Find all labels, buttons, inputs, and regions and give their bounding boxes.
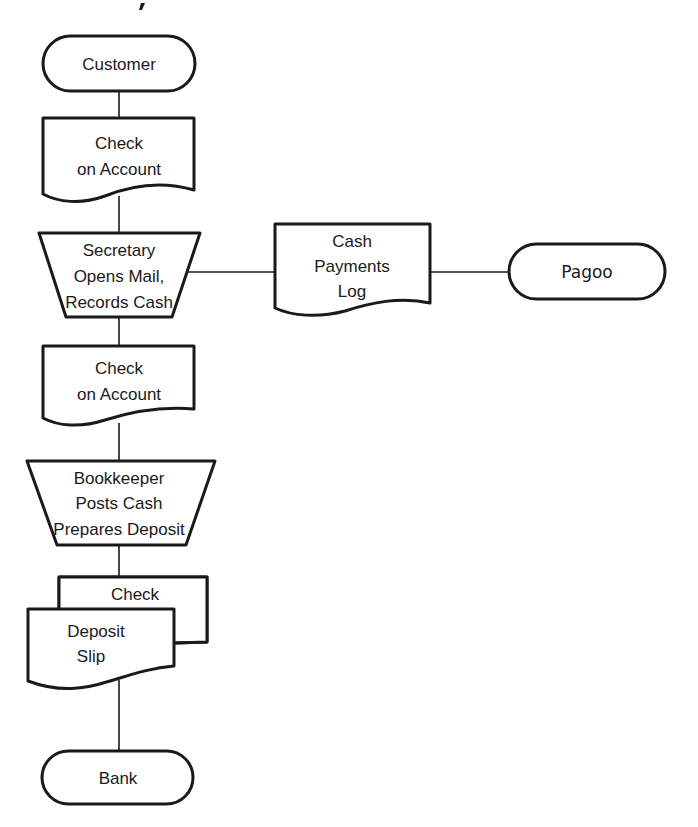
- node-label: Check: [95, 134, 144, 153]
- node-label: Payments: [314, 257, 390, 276]
- node-label: Posts Cash: [76, 494, 163, 513]
- node-label: Bookkeeper: [74, 469, 165, 488]
- node-label: Check: [95, 359, 144, 378]
- node-label: Check: [111, 585, 160, 604]
- node-bank: Bank: [42, 751, 193, 804]
- node-deposit-slip: Deposit Slip: [28, 609, 174, 689]
- node-label: on Account: [77, 160, 161, 179]
- connectors: [119, 92, 508, 750]
- cropped-mark: [139, 3, 145, 10]
- node-secretary: Secretary Opens Mail, Records Cash: [39, 233, 200, 317]
- node-bookkeeper: Bookkeeper Posts Cash Prepares Deposit: [27, 461, 215, 545]
- node-label: Log: [338, 282, 366, 301]
- node-label: Slip: [77, 647, 105, 666]
- node-label: Deposit: [67, 622, 125, 641]
- node-label: Opens Mail,: [74, 267, 165, 286]
- node-label: on Account: [77, 385, 161, 404]
- cash-receipts-flowchart: Customer Check on Account Secretary Open…: [0, 0, 698, 827]
- node-cash-payments-log: Cash Payments Log: [275, 224, 430, 315]
- node-label: Prepares Deposit: [53, 520, 185, 539]
- node-label: Records Cash: [65, 293, 173, 312]
- node-customer: Customer: [43, 36, 195, 91]
- node-label: Bank: [99, 769, 138, 788]
- node-pagoo: Pagoo: [509, 244, 665, 299]
- node-check-on-account-2: Check on Account: [43, 346, 194, 425]
- node-check-on-account-1: Check on Account: [43, 118, 194, 202]
- node-label: Pagoo: [561, 262, 613, 282]
- node-label: Secretary: [83, 241, 156, 260]
- node-label: Cash: [332, 232, 372, 251]
- node-label: Customer: [82, 55, 156, 74]
